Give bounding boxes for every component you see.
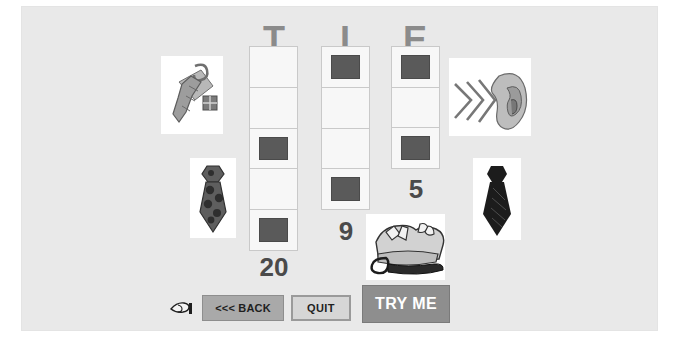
quit-button[interactable]: QUIT (291, 295, 351, 321)
app-root: T I E 20 9 5 (0, 0, 680, 354)
activity-panel: T I E 20 9 5 (21, 6, 658, 331)
cell-marker (332, 56, 359, 77)
column-t-cell-2[interactable] (250, 88, 297, 129)
tie-with-gift-box-image (161, 56, 223, 134)
letter-column-t[interactable] (249, 46, 298, 251)
pointing-hand-icon[interactable] (169, 298, 195, 318)
polka-dot-tie-image (190, 158, 236, 238)
cell-marker (332, 178, 359, 199)
cell-marker (402, 56, 429, 77)
column-e-value: 5 (388, 176, 444, 202)
black-tie-image (473, 158, 521, 240)
column-t-cell-5[interactable] (250, 210, 297, 250)
letter-column-e[interactable] (391, 46, 440, 169)
letter-column-i[interactable] (321, 46, 370, 210)
column-t-cell-4[interactable] (250, 169, 297, 210)
cell-marker (402, 137, 429, 158)
back-button[interactable]: <<< BACK (202, 295, 284, 321)
column-i-cell-1[interactable] (322, 47, 369, 88)
column-t-cell-3[interactable] (250, 129, 297, 170)
column-i-cell-2[interactable] (322, 88, 369, 129)
column-t-cell-1[interactable] (250, 47, 297, 88)
column-t-value: 20 (246, 254, 302, 280)
column-i-cell-3[interactable] (322, 129, 369, 170)
column-e-cell-1[interactable] (392, 47, 439, 88)
column-e-cell-3[interactable] (392, 128, 439, 168)
try-me-button[interactable]: TRY ME (362, 285, 450, 323)
column-e-cell-2[interactable] (392, 88, 439, 129)
ear-listening-image (449, 58, 531, 136)
cell-marker (260, 219, 287, 240)
shirts-and-tie-image (366, 214, 445, 280)
cell-marker (260, 138, 287, 159)
column-i-cell-4[interactable] (322, 169, 369, 209)
